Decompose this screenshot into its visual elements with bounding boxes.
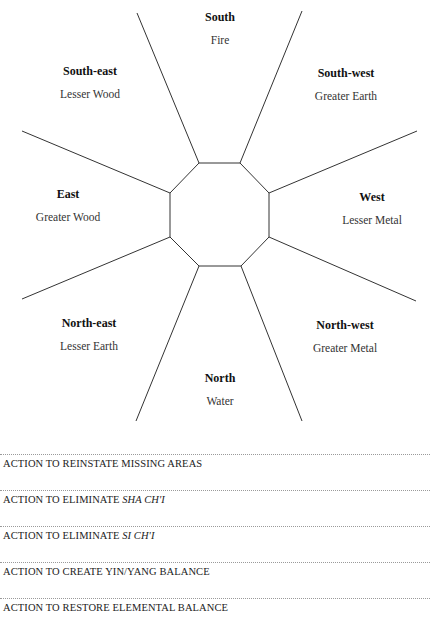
sector-north-east: North-east Lesser Earth: [19, 316, 159, 352]
action-text: ACTION TO REINSTATE MISSING AREAS: [3, 458, 202, 469]
direction-label: South: [150, 10, 290, 25]
action-italic-term: SI CH'I: [122, 530, 154, 541]
action-eliminate-sha-chi: ACTION TO ELIMINATE SHA CH'I: [3, 494, 165, 505]
element-label: Lesser Earth: [19, 340, 159, 352]
sector-east: East Greater Wood: [0, 187, 138, 223]
dotted-rule: [0, 490, 430, 491]
sector-north: North Water: [150, 371, 290, 407]
dotted-rule: [0, 526, 430, 527]
divider-line-east-southeast: [22, 131, 170, 193]
direction-label: North: [150, 371, 290, 386]
octagon: [170, 163, 269, 266]
divider-line-northeast-east: [22, 237, 170, 299]
action-text: ACTION TO ELIMINATE: [3, 530, 122, 541]
action-eliminate-si-chi: ACTION TO ELIMINATE SI CH'I: [3, 530, 155, 541]
action-reinstate-missing-areas: ACTION TO REINSTATE MISSING AREAS: [3, 458, 202, 469]
dotted-rule: [0, 598, 430, 599]
element-label: Water: [150, 395, 290, 407]
divider-line-west-northwest: [269, 237, 416, 301]
divider-line-southwest-west: [269, 131, 417, 193]
sector-west: West Lesser Metal: [302, 190, 430, 226]
direction-label: North-west: [275, 318, 415, 333]
action-text: ACTION TO ELIMINATE: [3, 494, 122, 505]
direction-label: South-west: [276, 66, 416, 81]
sector-south-east: South-east Lesser Wood: [20, 64, 160, 100]
element-label: Greater Earth: [276, 90, 416, 102]
sector-north-west: North-west Greater Metal: [275, 318, 415, 354]
element-label: Lesser Metal: [302, 214, 430, 226]
action-text: ACTION TO RESTORE ELEMENTAL BALANCE: [3, 602, 228, 613]
action-restore-elemental-balance: ACTION TO RESTORE ELEMENTAL BALANCE: [3, 602, 228, 613]
element-label: Greater Metal: [275, 342, 415, 354]
direction-label: East: [0, 187, 138, 202]
action-italic-term: SHA CH'I: [122, 494, 165, 505]
action-text: ACTION TO CREATE YIN/YANG BALANCE: [3, 566, 210, 577]
direction-label: South-east: [20, 64, 160, 79]
element-label: Greater Wood: [0, 211, 138, 223]
dotted-rule: [0, 454, 430, 455]
direction-label: North-east: [19, 316, 159, 331]
sector-south: South Fire: [150, 10, 290, 46]
sector-south-west: South-west Greater Earth: [276, 66, 416, 102]
element-label: Fire: [150, 34, 290, 46]
action-create-yin-yang-balance: ACTION TO CREATE YIN/YANG BALANCE: [3, 566, 210, 577]
element-label: Lesser Wood: [20, 88, 160, 100]
dotted-rule: [0, 562, 430, 563]
direction-label: West: [302, 190, 430, 205]
